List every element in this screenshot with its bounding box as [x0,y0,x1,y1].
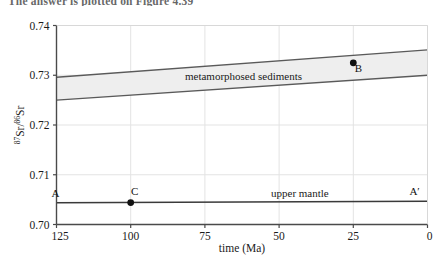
figure-root: The answer is plotted on Figure 4.39 0.7… [0,0,441,263]
y-axis-title: 87Sr/86Sr [13,106,26,145]
svg-text:time (Ma): time (Ma) [219,242,265,255]
data-point-label: A′ [409,185,419,197]
sr-isotope-evolution-chart: 0.700.710.720.730.741251007550250 ACA′B … [0,0,441,263]
x-tick-label: 125 [52,230,70,242]
y-tick-label: 0.74 [29,20,49,32]
x-axis-title: time (Ma) [219,242,265,255]
band-label: metamorphosed sediments [185,70,302,82]
svg-text:87Sr/86Sr: 87Sr/86Sr [13,106,26,145]
series-label: upper mantle [271,187,329,199]
y-tick-label: 0.71 [29,169,49,181]
y-tick-label: 0.72 [29,119,49,131]
data-point-label: C [131,185,138,197]
y-tick-label: 0.70 [29,219,49,231]
data-point-marker [127,199,134,206]
x-tick-label: 25 [348,230,360,242]
data-point-label: B [355,62,362,74]
x-tick-label: 50 [273,230,285,242]
x-tick-label: 75 [199,230,211,242]
y-tick-label: 0.73 [29,69,49,81]
data-point-label: A [52,187,60,199]
x-tick-label: 100 [122,230,140,242]
x-tick-label: 0 [427,230,433,242]
